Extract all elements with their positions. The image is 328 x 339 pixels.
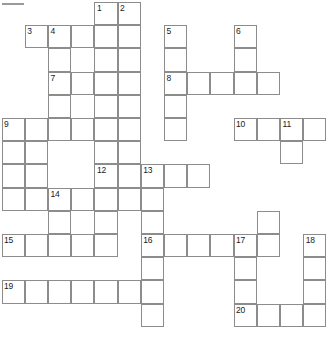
crossword-cell[interactable] (118, 95, 141, 118)
crossword-cell[interactable] (257, 304, 280, 327)
crossword-cell[interactable] (234, 72, 257, 95)
crossword-cell[interactable] (234, 280, 257, 303)
crossword-cell[interactable] (2, 141, 25, 164)
crossword-cell[interactable] (94, 48, 117, 71)
cell-clue-number: 18 (306, 235, 315, 245)
crossword-cell[interactable] (71, 234, 94, 257)
crossword-cell[interactable] (141, 304, 164, 327)
crossword-cell[interactable] (25, 141, 48, 164)
crossword-cell-numbered[interactable]: 1 (94, 2, 117, 25)
crossword-cell[interactable] (48, 234, 71, 257)
crossword-cell[interactable] (71, 72, 94, 95)
crossword-cell[interactable] (25, 234, 48, 257)
crossword-cell[interactable] (303, 280, 326, 303)
crossword-cell[interactable] (280, 304, 303, 327)
crossword-cell[interactable] (118, 280, 141, 303)
crossword-cell[interactable] (118, 164, 141, 187)
crossword-cell[interactable] (164, 48, 187, 71)
crossword-cell[interactable] (210, 72, 233, 95)
crossword-cell[interactable] (164, 234, 187, 257)
crossword-cell[interactable] (2, 164, 25, 187)
crossword-cell-numbered[interactable]: 16 (141, 234, 164, 257)
crossword-cell[interactable] (303, 304, 326, 327)
crossword-cell[interactable] (48, 211, 71, 234)
cell-clue-number: 16 (143, 235, 152, 245)
crossword-cell[interactable] (141, 211, 164, 234)
crossword-cell-numbered[interactable]: 13 (141, 164, 164, 187)
crossword-cell[interactable] (94, 280, 117, 303)
crossword-cell[interactable] (71, 188, 94, 211)
crossword-cell-numbered[interactable]: 20 (234, 304, 257, 327)
crossword-cell[interactable] (187, 164, 210, 187)
crossword-cell[interactable] (257, 234, 280, 257)
crossword-cell[interactable] (94, 72, 117, 95)
crossword-cell[interactable] (257, 118, 280, 141)
crossword-cell-numbered[interactable]: 18 (303, 234, 326, 257)
crossword-cell[interactable] (48, 280, 71, 303)
crossword-cell[interactable] (303, 257, 326, 280)
cell-clue-number: 6 (236, 26, 241, 36)
crossword-puzzle: 1234567891011121314151617181920 (0, 0, 328, 339)
crossword-cell[interactable] (25, 280, 48, 303)
crossword-cell[interactable] (94, 25, 117, 48)
crossword-cell[interactable] (94, 188, 117, 211)
crossword-cell-numbered[interactable]: 8 (164, 72, 187, 95)
crossword-cell[interactable] (257, 72, 280, 95)
crossword-cell[interactable] (234, 257, 257, 280)
crossword-cell[interactable] (118, 72, 141, 95)
crossword-cell-numbered[interactable]: 5 (164, 25, 187, 48)
crossword-cell[interactable] (71, 280, 94, 303)
cell-clue-number: 9 (4, 119, 9, 129)
crossword-cell[interactable] (164, 164, 187, 187)
crossword-cell[interactable] (2, 188, 25, 211)
crossword-cell[interactable] (94, 141, 117, 164)
crossword-cell[interactable] (118, 25, 141, 48)
crossword-cell[interactable] (48, 95, 71, 118)
crossword-grid[interactable]: 1234567891011121314151617181920 (0, 0, 328, 339)
crossword-cell[interactable] (187, 234, 210, 257)
crossword-cell-numbered[interactable]: 2 (118, 2, 141, 25)
crossword-cell-numbered[interactable]: 7 (48, 72, 71, 95)
crossword-cell[interactable] (210, 234, 233, 257)
crossword-cell[interactable] (164, 118, 187, 141)
cell-clue-number: 13 (143, 165, 152, 175)
crossword-cell[interactable] (94, 95, 117, 118)
crossword-cell-numbered[interactable]: 9 (2, 118, 25, 141)
crossword-cell[interactable] (25, 188, 48, 211)
crossword-cell-numbered[interactable]: 4 (48, 25, 71, 48)
crossword-cell[interactable] (71, 118, 94, 141)
crossword-cell[interactable] (280, 141, 303, 164)
cell-clue-number: 10 (236, 119, 245, 129)
crossword-cell-numbered[interactable]: 17 (234, 234, 257, 257)
crossword-cell-numbered[interactable]: 14 (48, 188, 71, 211)
crossword-cell-numbered[interactable]: 10 (234, 118, 257, 141)
crossword-cell[interactable] (141, 188, 164, 211)
cell-clue-number: 12 (97, 165, 106, 175)
crossword-cell[interactable] (303, 118, 326, 141)
crossword-cell-numbered[interactable]: 11 (280, 118, 303, 141)
crossword-cell-numbered[interactable]: 15 (2, 234, 25, 257)
crossword-cell-numbered[interactable]: 12 (94, 164, 117, 187)
crossword-cell-numbered[interactable]: 6 (234, 25, 257, 48)
crossword-cell-numbered[interactable]: 3 (25, 25, 48, 48)
crossword-cell[interactable] (48, 118, 71, 141)
crossword-cell[interactable] (118, 48, 141, 71)
crossword-cell[interactable] (234, 48, 257, 71)
crossword-cell-numbered[interactable]: 19 (2, 280, 25, 303)
crossword-cell[interactable] (141, 280, 164, 303)
crossword-cell[interactable] (25, 164, 48, 187)
crossword-cell[interactable] (94, 118, 117, 141)
crossword-cell[interactable] (141, 257, 164, 280)
crossword-cell[interactable] (25, 118, 48, 141)
crossword-cell[interactable] (187, 72, 210, 95)
crossword-cell[interactable] (257, 211, 280, 234)
crossword-cell[interactable] (94, 211, 117, 234)
crossword-cell[interactable] (118, 188, 141, 211)
crossword-cell[interactable] (118, 118, 141, 141)
crossword-cell[interactable] (48, 48, 71, 71)
crossword-cell[interactable] (94, 234, 117, 257)
crossword-cell[interactable] (118, 141, 141, 164)
crossword-cell[interactable] (164, 95, 187, 118)
cell-clue-number: 8 (167, 73, 172, 83)
crossword-cell[interactable] (71, 25, 94, 48)
